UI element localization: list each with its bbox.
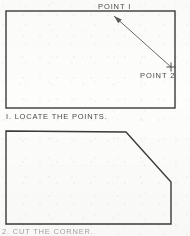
caption-step-1: I. LOCATE THE POINTS. [6,113,108,121]
leader-line [114,16,171,67]
caption-step-2-clipped: 2. CUT THE CORNER. [2,228,94,236]
figure-2-group [6,131,171,224]
point-2-label: POINT 2 [140,72,175,80]
figure-1-group [6,11,176,108]
figure-2-chamfered-rectangle [6,131,171,224]
worksheet-sheet: POINT I POINT 2 I. LOCATE THE POINTS. 2.… [0,0,190,236]
point-1-label: POINT I [98,3,131,11]
figure-1-rectangle [6,11,175,108]
